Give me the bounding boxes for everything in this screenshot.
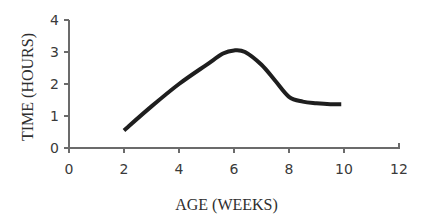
x-axis-title: AGE (WEEKS): [175, 196, 278, 214]
x-tick-label: 4: [175, 161, 184, 177]
x-tick-label: 12: [390, 161, 408, 177]
line-chart: 01234 024681012 AGE (WEEKS) TIME (HOURS): [0, 0, 430, 224]
y-axis-ticks: 01234: [50, 12, 69, 156]
y-axis-title: TIME (HOURS): [19, 33, 37, 141]
x-tick-label: 6: [230, 161, 239, 177]
x-tick-label: 8: [285, 161, 294, 177]
y-tick-label: 0: [50, 140, 59, 156]
y-tick-label: 3: [50, 44, 59, 60]
x-tick-label: 10: [335, 161, 353, 177]
x-tick-label: 2: [120, 161, 129, 177]
data-line: [124, 50, 341, 130]
y-tick-label: 1: [50, 108, 59, 124]
x-tick-label: 0: [65, 161, 74, 177]
y-tick-label: 4: [50, 12, 59, 28]
y-tick-label: 2: [50, 76, 59, 92]
